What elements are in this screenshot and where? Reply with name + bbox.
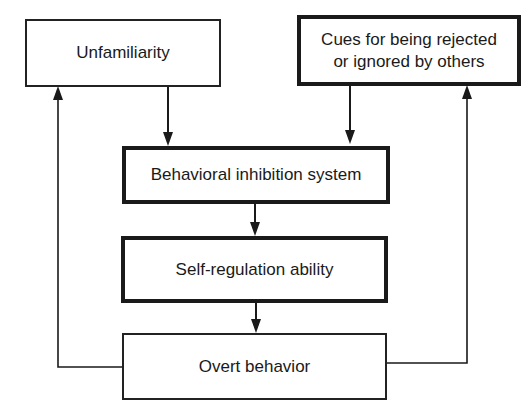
node-overt-behavior: Overt behavior [122,333,387,400]
node-unfamiliarity-label: Unfamiliarity [76,42,170,64]
node-bis-label: Behavioral inhibition system [151,164,362,186]
node-cues-label-line2: or ignored by others [333,51,484,73]
node-self-regulation-ability: Self-regulation ability [121,236,388,303]
node-cues-rejected-ignored: Cues for being rejected or ignored by ot… [297,15,521,86]
arrow-overt-to-cues [386,97,467,363]
arrow-overt-to-unfamiliarity [58,98,122,367]
node-unfamiliarity: Unfamiliarity [25,19,221,87]
node-self-regulation-label: Self-regulation ability [176,259,334,281]
node-behavioral-inhibition-system: Behavioral inhibition system [122,146,390,204]
node-cues-label-line1: Cues for being rejected [321,29,497,51]
node-overt-behavior-label: Overt behavior [199,356,311,378]
